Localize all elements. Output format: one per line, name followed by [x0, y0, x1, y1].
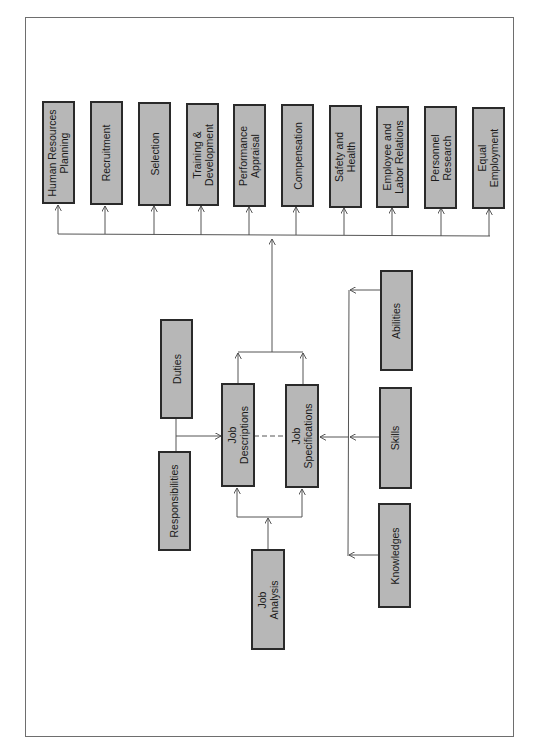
box-equal-employment: Equal Employment [472, 107, 505, 209]
box-safety-health: Safety and Health [329, 105, 362, 208]
box-skills: Skills [379, 387, 412, 489]
box-recruitment: Recruitment [90, 101, 123, 205]
box-abilities: Abilities [380, 270, 413, 371]
box-job-descriptions: Job Descriptions [221, 383, 255, 487]
box-personnel-research: Personnel Research [424, 106, 457, 209]
box-job-analysis: Job Analysis [251, 549, 285, 650]
box-job-specifications: Job Specifications [285, 384, 319, 488]
box-human-resources-planning: Human Resources Planning [42, 101, 75, 204]
box-compensation: Compensation [281, 104, 314, 207]
box-responsibilities: Responsibilities [158, 451, 191, 551]
box-training-development: Training & Development [186, 103, 219, 206]
box-employee-labor-relations: Employee and Labor Relations [376, 106, 409, 208]
box-duties: Duties [160, 319, 193, 419]
box-selection: Selection [138, 102, 171, 206]
box-knowledges: Knowledges [378, 503, 411, 608]
box-performance-appraisal: Performance Appraisal [233, 104, 266, 207]
